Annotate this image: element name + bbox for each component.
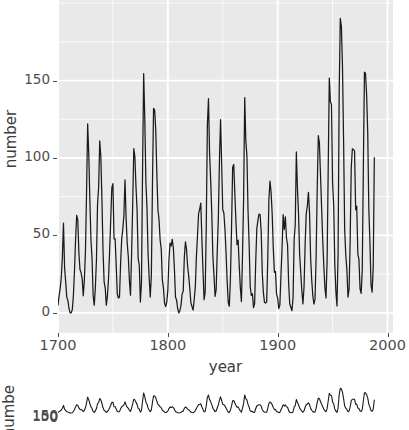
y-tick-label: 0 xyxy=(18,411,58,425)
x-tick-label: 2000 xyxy=(348,338,409,353)
x-tick-label: 1900 xyxy=(238,338,318,353)
y-axis-tick-labels-secondary-overlapped: 150 100 50 0 xyxy=(18,409,58,423)
sunspot-series-line-secondary xyxy=(58,388,374,413)
sunspot-chart-secondary-clipped: number 150 100 50 0 xyxy=(0,385,409,430)
sunspot-chart-main: number 150 100 50 0 1700 1800 1900 2000 … xyxy=(0,0,409,385)
y-axis-title-secondary: number xyxy=(0,385,18,430)
x-axis-title: year xyxy=(58,358,393,376)
x-axis-tick-labels: 1700 1800 1900 2000 xyxy=(0,0,409,385)
plot-panel-secondary xyxy=(58,385,393,430)
sunspot-line-plot-secondary xyxy=(58,385,393,430)
x-tick-label: 1700 xyxy=(18,338,98,353)
x-tick-label: 1800 xyxy=(128,338,208,353)
